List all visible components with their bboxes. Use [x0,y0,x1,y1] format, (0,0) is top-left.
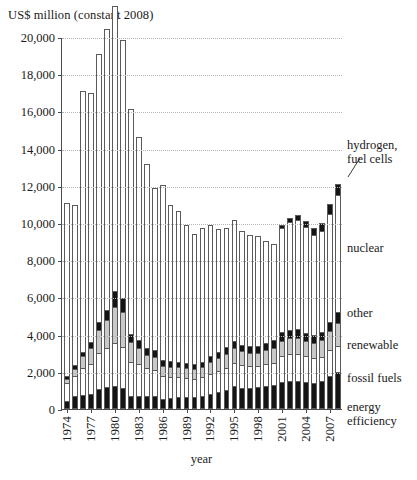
bar-segment-hydrogen [311,228,317,235]
bar-segment-fossil_fuels [239,365,245,387]
bar-1977 [88,93,94,409]
bar-segment-nuclear [327,214,333,322]
x-tick-label: 2004 [299,416,314,442]
x-tick-mark [306,409,307,413]
bar-segment-other [271,340,277,348]
legend-label-renewable: renewable [347,338,398,352]
bar-segment-nuclear [200,228,206,362]
bar-segment-energy_efficiency [239,388,245,409]
bar-segment-nuclear [279,228,285,332]
bar-1976 [80,91,86,409]
bar-segment-fossil_fuels [128,362,134,395]
bar-1995 [232,220,238,409]
bar-segment-energy_efficiency [152,396,158,409]
bar-segment-hydrogen [327,204,333,214]
y-tick-label: 4,000 [27,328,55,343]
x-tick-mark [139,409,140,413]
bar-2003 [295,215,301,409]
bar-segment-energy_efficiency [295,381,301,409]
bar-segment-energy_efficiency [160,399,166,409]
bar-segment-renewable [224,354,230,368]
bar-segment-renewable [192,369,198,378]
bar-segment-energy_efficiency [136,396,142,409]
bar-segment-renewable [80,356,86,368]
bar-segment-renewable [295,338,301,354]
y-gridline [62,224,342,225]
bar-segment-energy_efficiency [255,387,261,409]
bar-segment-energy_efficiency [120,388,126,409]
y-gridline [62,75,342,76]
bar-segment-nuclear [152,188,158,350]
bar-segment-fossil_fuels [64,383,70,402]
bar-segment-renewable [247,353,253,366]
bar-segment-energy_efficiency [327,376,333,409]
bar-segment-fossil_fuels [184,378,190,398]
bar-segment-fossil_fuels [152,370,158,396]
bar-segment-nuclear [104,29,110,310]
bar-segment-fossil_fuels [287,354,293,381]
y-tick-mark [58,112,62,113]
y-tick-mark [58,224,62,225]
bar-segment-other [120,298,126,312]
bar-segment-nuclear [176,211,182,362]
bar-1975 [72,205,78,409]
x-tick-label: 2007 [323,416,338,442]
bar-segment-energy_efficiency [88,394,94,409]
bar-segment-renewable [88,348,94,365]
bar-segment-renewable [144,355,150,368]
bar-segment-renewable [271,348,277,363]
y-tick-mark [58,38,62,39]
bar-segment-nuclear [335,195,341,312]
y-tick-label: 6,000 [27,291,55,306]
y-axis-caption: US$ million (constant 2008) [8,8,153,23]
bar-1991 [200,228,206,409]
bar-segment-other [247,346,253,353]
bar-segment-other [136,340,142,347]
x-axis-title: year [61,452,342,467]
bar-segment-other [104,310,110,320]
x-tick-mark [163,409,164,413]
bar-segment-fossil_fuels [136,364,142,396]
x-tick-mark [187,409,188,413]
bar-segment-energy_efficiency [263,386,269,409]
x-tick-label: 1977 [84,416,99,442]
bar-2001 [279,225,285,409]
bar-segment-nuclear [184,225,190,363]
bar-segment-nuclear [247,235,253,347]
bar-segment-other [144,348,150,355]
bar-segment-renewable [319,340,325,357]
bar-segment-nuclear [64,203,70,376]
bar-segment-nuclear [295,220,301,330]
bar-segment-energy_efficiency [271,385,277,409]
x-tick-label: 2001 [275,416,290,442]
bar-segment-renewable [104,320,110,348]
bar-segment-fossil_fuels [160,376,166,398]
bar-segment-fossil_fuels [279,356,285,382]
bar-segment-nuclear [136,137,142,340]
x-tick-label: 1989 [180,416,195,442]
y-gridline [62,187,342,188]
bar-1993 [216,229,222,409]
bar-segment-renewable [152,357,158,370]
bar-2000 [271,243,277,409]
bar-segment-fossil_fuels [335,346,341,372]
bar-1979 [104,29,110,409]
x-tick-label: 1980 [108,416,123,442]
bar-segment-nuclear [216,229,222,352]
bar-segment-renewable [216,358,222,371]
legend-label-fossil_fuels: fossil fuels [347,371,402,385]
x-tick-label: 1974 [60,416,75,442]
bar-2007 [327,204,333,409]
bar-segment-energy_efficiency [335,372,341,409]
bar-1992 [208,225,214,409]
y-tick-mark [58,150,62,151]
bar-1998 [255,236,261,409]
x-tick-label: 1995 [227,416,242,442]
bar-segment-fossil_fuels [295,354,301,381]
bar-1999 [263,241,269,409]
bar-segment-fossil_fuels [208,374,214,394]
y-tick-mark [58,373,62,374]
bar-segment-energy_efficiency [80,395,86,409]
bar-segment-nuclear [239,231,245,344]
bar-segment-renewable [287,338,293,354]
